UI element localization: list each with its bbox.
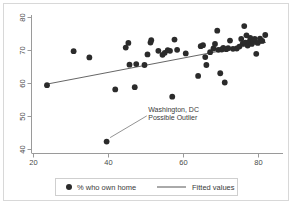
y-axis-ticks	[28, 18, 32, 150]
data-point	[125, 40, 131, 46]
x-tick-label: 40	[104, 158, 112, 167]
data-point	[200, 42, 206, 48]
data-point	[71, 48, 77, 54]
annotation-leader-line	[110, 116, 147, 138]
x-axis-ticks	[34, 154, 259, 158]
data-point	[195, 73, 201, 79]
data-point	[148, 37, 154, 43]
x-axis-tick-labels: 20 40 60 80	[29, 158, 262, 167]
annotation-label-line1: Washington, DC	[148, 106, 199, 114]
data-point	[227, 38, 233, 44]
legend-label-fitted-values: Fitted values	[192, 183, 235, 192]
scatter-plot: 80 70 60 50 40 20 40 60 80 Washington, D…	[0, 0, 292, 204]
x-tick-label: 20	[29, 158, 37, 167]
data-point	[44, 82, 50, 88]
data-point	[217, 70, 223, 76]
y-axis-tick-labels: 80 70 60 50 40	[18, 13, 27, 153]
y-tick-label: 80	[18, 13, 27, 21]
data-point	[169, 94, 175, 100]
data-point	[222, 80, 228, 86]
x-tick-label: 60	[179, 158, 187, 167]
legend-label-own-home: % who own home	[77, 183, 136, 192]
data-point	[112, 87, 118, 93]
data-point	[145, 52, 151, 58]
chart-figure: 80 70 60 50 40 20 40 60 80 Washington, D…	[0, 0, 292, 204]
y-tick-label: 70	[18, 46, 27, 54]
data-point	[241, 23, 247, 29]
y-tick-label: 60	[18, 79, 27, 87]
y-tick-label: 50	[18, 112, 27, 120]
data-point	[183, 51, 189, 57]
data-point	[174, 47, 180, 53]
data-point	[259, 38, 265, 44]
legend: % who own home Fitted values	[56, 179, 238, 196]
data-point	[132, 84, 138, 90]
data-point	[214, 28, 220, 34]
legend-marker-own-home	[66, 184, 72, 190]
data-point	[104, 139, 110, 145]
data-point	[142, 62, 148, 68]
data-point	[172, 37, 178, 43]
data-point	[202, 54, 208, 60]
y-tick-label: 40	[18, 145, 27, 153]
data-point	[262, 32, 268, 38]
annotation-label-line2: Possible Outlier	[148, 114, 198, 121]
data-point	[225, 45, 231, 51]
data-point	[203, 62, 209, 68]
data-point	[127, 62, 133, 68]
data-point	[212, 41, 218, 47]
x-tick-label: 80	[254, 158, 262, 167]
data-point	[86, 55, 92, 61]
data-point	[253, 51, 259, 57]
scatter-points-group	[44, 23, 268, 144]
data-point	[133, 61, 139, 67]
data-point	[167, 48, 173, 54]
